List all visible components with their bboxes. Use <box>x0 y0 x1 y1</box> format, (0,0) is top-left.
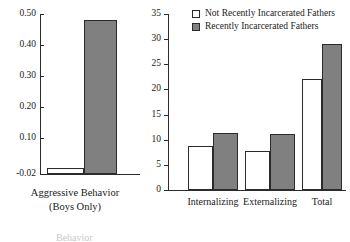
open-square-icon <box>192 10 200 18</box>
right-panel-tick-35 <box>164 14 168 15</box>
right-panel-ytick-label-5: 10 <box>140 135 161 145</box>
filled-square-icon <box>192 23 200 31</box>
left-panel-tick-5 <box>40 174 44 175</box>
left-panel-ytick-label-0: 0.50 <box>4 9 36 19</box>
right-panel-bar-internalizing-recently-incarcerated <box>213 133 238 190</box>
right-panel-tick-30 <box>164 39 168 40</box>
right-panel-tick-15 <box>164 115 168 116</box>
right-panel-bar-total-recently-incarcerated <box>322 44 342 190</box>
left-panel-bar-recently-incarcerated <box>84 20 117 174</box>
right-panel-ytick-label-7: 0 <box>140 185 161 195</box>
left-panel-y-axis <box>40 14 41 174</box>
figure-two-panel-bar-charts: 0.50 0.40 0.30 0.20 0.10 -0.02 Aggressiv… <box>0 0 350 242</box>
left-panel-aggressive-behavior: 0.50 0.40 0.30 0.20 0.10 -0.02 Aggressiv… <box>0 0 150 242</box>
right-panel-ytick-label-4: 15 <box>140 110 161 120</box>
right-panel-ytick-label-0: 35 <box>140 9 161 19</box>
left-panel-tick-2 <box>40 76 44 77</box>
right-panel-tick-25 <box>164 64 168 65</box>
right-panel-y-axis <box>168 14 169 190</box>
right-panel-ytick-label-3: 20 <box>140 84 161 94</box>
left-panel-ytick-label-4: 0.10 <box>4 133 36 143</box>
cropped-footer-text: Behavior <box>56 233 93 241</box>
right-panel-bar-externalizing-not-recently-incarcerated <box>245 151 270 190</box>
left-panel-caption-line1: Aggressive Behavior <box>0 186 150 199</box>
right-panel-tick-20 <box>164 89 168 90</box>
right-panel-tick-10 <box>164 140 168 141</box>
legend-item-recently-incarcerated: Recently Incarcerated Fathers <box>192 21 335 32</box>
left-panel-ytick-label-2: 0.30 <box>4 71 36 81</box>
right-panel-tick-5 <box>164 165 168 166</box>
left-panel-bar-not-recently-incarcerated <box>47 168 84 174</box>
right-panel-bar-externalizing-recently-incarcerated <box>270 134 295 190</box>
legend-item-not-recently-incarcerated: Not Recently Incarcerated Fathers <box>192 8 335 19</box>
right-panel-tick-0 <box>164 190 168 191</box>
right-panel-ytick-label-6: 5 <box>140 160 161 170</box>
legend: Not Recently Incarcerated Fathers Recent… <box>192 8 335 32</box>
right-panel-category-label-total: Total <box>292 196 350 207</box>
right-panel-bar-total-not-recently-incarcerated <box>302 79 322 190</box>
right-panel-behavior-scores: 35 30 25 20 15 10 5 0 Internalizing Exte… <box>140 0 350 242</box>
left-panel-ytick-label-5: -0.02 <box>2 169 36 179</box>
right-panel-bar-internalizing-not-recently-incarcerated <box>188 146 213 190</box>
right-panel-ytick-label-1: 30 <box>140 34 161 44</box>
legend-label-recently-incarcerated: Recently Incarcerated Fathers <box>205 21 318 32</box>
left-panel-x-axis <box>40 174 140 175</box>
right-panel-x-axis <box>168 190 346 191</box>
left-panel-tick-0 <box>40 14 44 15</box>
left-panel-caption-line2: (Boys Only) <box>0 200 150 213</box>
left-panel-tick-1 <box>40 45 44 46</box>
legend-label-not-recently-incarcerated: Not Recently Incarcerated Fathers <box>205 8 335 19</box>
left-panel-tick-4 <box>40 138 44 139</box>
left-panel-ytick-label-1: 0.40 <box>4 40 36 50</box>
left-panel-tick-3 <box>40 107 44 108</box>
right-panel-ytick-label-2: 25 <box>140 59 161 69</box>
left-panel-ytick-label-3: 0.20 <box>4 102 36 112</box>
